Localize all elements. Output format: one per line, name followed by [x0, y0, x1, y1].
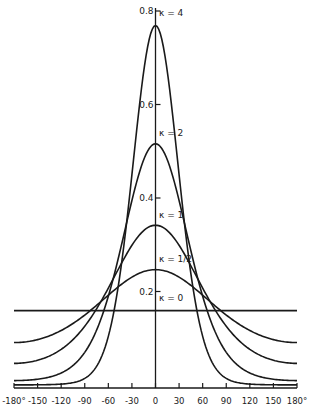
curve-label-kappa-1: κ = 1 [159, 210, 183, 220]
y-axis: 0.20.40.60.8 [139, 6, 160, 388]
x-tick-label: -30 [125, 396, 139, 406]
x-tick-label: 30 [174, 396, 185, 406]
x-axis: -180°-150-120-90-60-300306090120150180° [2, 383, 307, 406]
x-tick-label: 150 [265, 396, 281, 406]
x-tick-label: 0 [153, 396, 158, 406]
y-tick-label: 0.2 [139, 287, 153, 297]
von-mises-density-chart: κ = 0κ = 1/2κ = 1κ = 2κ = 4 -180°-150-12… [0, 0, 314, 413]
x-tick-label: 60 [197, 396, 208, 406]
curve-label-kappa-2: κ = 2 [159, 128, 183, 138]
x-tick-label: -120 [52, 396, 71, 406]
y-tick-label: 0.8 [139, 6, 154, 16]
curve-label-kappa-4: κ = 4 [159, 8, 184, 18]
x-tick-label: 90 [221, 396, 232, 406]
x-tick-label: -90 [78, 396, 92, 406]
x-tick-label: -180° [2, 396, 26, 406]
x-tick-label: -60 [101, 396, 115, 406]
y-tick-label: 0.6 [139, 100, 154, 110]
curve-label-kappa-0-5: κ = 1/2 [159, 254, 192, 264]
y-tick-label: 0.4 [139, 193, 154, 203]
curve-label-kappa-0: κ = 0 [159, 293, 184, 303]
x-tick-label: -150 [28, 396, 47, 406]
x-tick-label: 180° [287, 396, 307, 406]
x-tick-label: 120 [242, 396, 258, 406]
